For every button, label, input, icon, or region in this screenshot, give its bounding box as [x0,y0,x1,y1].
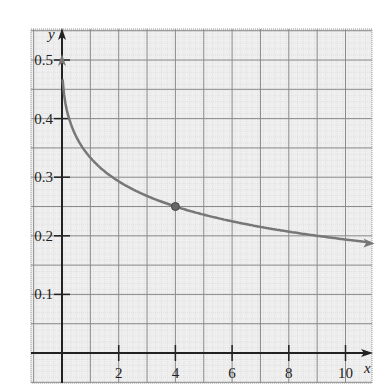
x-tick-label: 4 [172,365,180,381]
x-tick-label: 10 [338,365,353,381]
y-axis-label: y [46,26,55,42]
x-axis-label: x [363,360,371,376]
y-tick-label: 0.5 [34,52,53,68]
y-tick-label: 0.2 [34,228,53,244]
highlighted-point [171,203,179,211]
chart: 2468100.10.20.30.40.5xy [0,0,392,389]
y-tick-label: 0.4 [34,111,53,127]
y-tick-label: 0.1 [34,286,53,302]
y-tick-label: 0.3 [34,169,53,185]
x-tick-label: 6 [228,365,236,381]
x-tick-label: 8 [285,365,293,381]
x-tick-label: 2 [115,365,123,381]
